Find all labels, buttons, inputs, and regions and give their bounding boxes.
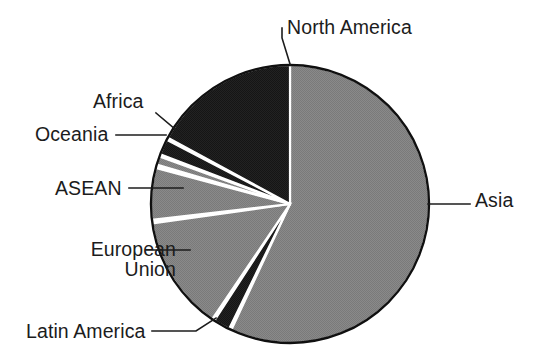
leader-line-latin-america [152,318,216,331]
slice-label-european-union-line2: Union [125,258,176,280]
slice-label-asia: Asia [475,190,513,210]
slice-label-oceania: Oceania [35,124,108,144]
slice-label-latin-america: Latin America [26,321,145,341]
pie-slices-group [151,65,429,343]
slice-label-european-union: European Union [36,239,176,280]
slice-label-asean: ASEAN [55,178,122,198]
slice-label-africa: Africa [93,91,143,111]
pie-chart: North America Asia Africa Oceania ASEAN … [0,0,534,360]
slice-label-north-america: North America [287,17,412,37]
slice-label-european-union-line1: European [91,238,176,260]
